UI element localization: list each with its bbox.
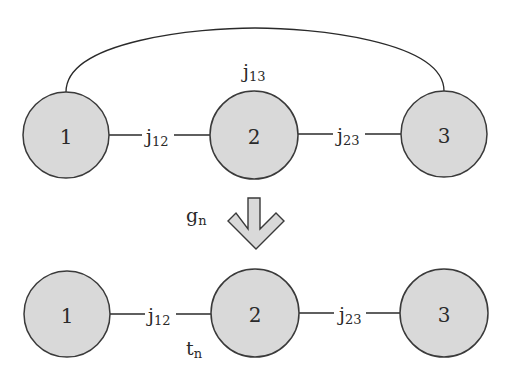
bottom-graph: j12 j23 tn 1 2 3 (24, 269, 488, 361)
transformation-label-gn: gn (186, 204, 207, 228)
down-arrow-icon (228, 198, 284, 249)
top-edge-label-j23: j23 (335, 124, 359, 148)
top-node-1: 1 (23, 92, 109, 178)
bottom-node-2-label: 2 (249, 303, 262, 327)
top-node-2-label: 2 (248, 125, 261, 149)
bottom-annotation-tn: tn (186, 337, 203, 361)
bottom-node-1-label: 1 (61, 304, 74, 328)
graph-transformation-diagram: j12 j23 j13 1 2 3 gn (0, 0, 517, 384)
top-node-3-label: 3 (438, 124, 451, 148)
bottom-edge-label-j23: j23 (337, 303, 361, 327)
bottom-node-1: 1 (24, 271, 110, 357)
top-graph: j12 j23 j13 1 2 3 (23, 28, 487, 179)
top-edge-label-j12: j12 (144, 125, 168, 149)
top-node-3: 3 (401, 91, 487, 177)
transformation: gn (186, 198, 284, 249)
top-edge-label-j13: j13 (241, 60, 265, 84)
bottom-node-3-label: 3 (438, 303, 451, 327)
top-node-1-label: 1 (60, 125, 73, 149)
bottom-node-3: 3 (400, 269, 488, 357)
bottom-node-2: 2 (211, 269, 299, 357)
bottom-edge-label-j12: j12 (146, 304, 170, 328)
top-node-2: 2 (210, 91, 298, 179)
